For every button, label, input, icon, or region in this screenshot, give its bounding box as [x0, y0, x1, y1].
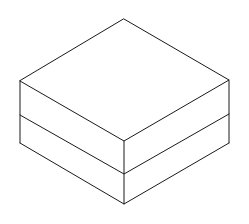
diagram-canvas: [0, 0, 249, 224]
stacked-boxes-diagram: [0, 0, 249, 224]
top-face: [20, 19, 229, 141]
